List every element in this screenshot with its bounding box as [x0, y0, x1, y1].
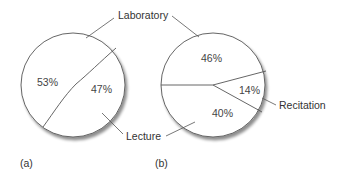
- label-recitation-group: Recitation: [262, 98, 326, 111]
- panel-label-a: (a): [20, 157, 33, 169]
- pie-chart-figure: 53% 47% 46% 14% 40% Laboratory Lecture R…: [0, 0, 348, 181]
- pie-a-lecture-percent: 47%: [91, 83, 112, 95]
- pie-b-recitation-percent: 14%: [239, 84, 260, 96]
- label-laboratory-group: Laboratory: [86, 9, 199, 38]
- panel-label-b: (b): [155, 157, 168, 169]
- label-recitation: Recitation: [279, 99, 326, 111]
- pie-b-lab-percent: 46%: [201, 52, 222, 64]
- label-laboratory: Laboratory: [118, 9, 169, 21]
- leader-line-lab-a: [86, 18, 114, 38]
- pie-a-lab-percent: 53%: [37, 76, 58, 88]
- pie-b-lecture-percent: 40%: [212, 107, 233, 119]
- leader-line-lab-b: [172, 16, 199, 37]
- label-lecture: Lecture: [126, 130, 161, 142]
- pie-a: 53% 47%: [21, 33, 125, 137]
- pie-b: 46% 14% 40%: [161, 33, 266, 137]
- leader-line-recitation: [262, 98, 276, 105]
